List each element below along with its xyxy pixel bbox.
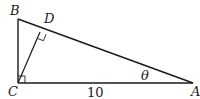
side-ab — [18, 19, 193, 83]
vertex-label-d: D — [43, 11, 55, 26]
altitude-cd — [18, 32, 40, 83]
side-label-ca: 10 — [87, 85, 104, 99]
angle-label-theta: θ — [141, 68, 149, 83]
vertex-label-b: B — [9, 3, 20, 18]
triangle-diagram: B D C A 10 θ — [0, 0, 200, 99]
vertex-label-a: A — [190, 84, 200, 99]
vertex-label-c: C — [8, 84, 18, 99]
